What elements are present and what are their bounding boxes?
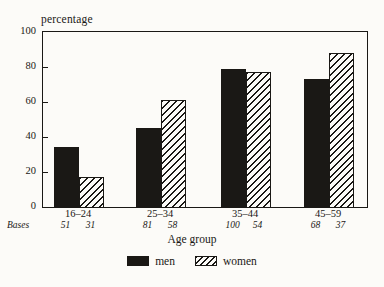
x-category-label: 45–59	[298, 208, 358, 219]
bar-women-0	[79, 177, 104, 207]
bar-chart-figure: percentage 020406080100 16–24513125–3481…	[0, 0, 384, 287]
bar-men-3	[304, 79, 329, 207]
y-tick-mark	[43, 102, 48, 103]
y-tick-label: 60	[6, 95, 36, 107]
legend-item-women: women	[195, 255, 257, 267]
legend-label-women: women	[223, 255, 257, 267]
bar-women-3	[329, 53, 354, 207]
y-axis-title: percentage	[41, 13, 93, 25]
bar-men-2	[221, 69, 246, 207]
y-tick-mark	[43, 172, 48, 173]
bar-women-2	[246, 72, 271, 207]
base-value-women: 58	[158, 220, 188, 230]
x-category-label: 16–24	[48, 208, 108, 219]
y-tick-label: 80	[6, 60, 36, 72]
legend: menwomen	[0, 255, 384, 267]
y-tick-mark	[43, 137, 48, 138]
base-value-women: 37	[326, 220, 356, 230]
legend-swatch-women	[195, 256, 217, 266]
y-tick-mark	[43, 67, 48, 68]
legend-swatch-men	[127, 256, 149, 266]
bar-men-1	[136, 128, 161, 207]
y-tick-label: 20	[6, 165, 36, 177]
bar-men-0	[54, 147, 79, 207]
plot-area	[42, 31, 368, 208]
x-axis-title: Age group	[0, 233, 384, 245]
legend-item-men: men	[127, 255, 175, 267]
legend-label-men: men	[155, 255, 175, 267]
y-tick-label: 0	[6, 200, 36, 212]
y-tick-label: 40	[6, 130, 36, 142]
base-value-women: 54	[243, 220, 273, 230]
bar-women-1	[161, 100, 186, 207]
y-tick-label: 100	[6, 25, 36, 37]
x-category-label: 35–44	[215, 208, 275, 219]
base-value-women: 31	[76, 220, 106, 230]
bases-label: Bases	[7, 220, 29, 230]
x-category-label: 25–34	[130, 208, 190, 219]
